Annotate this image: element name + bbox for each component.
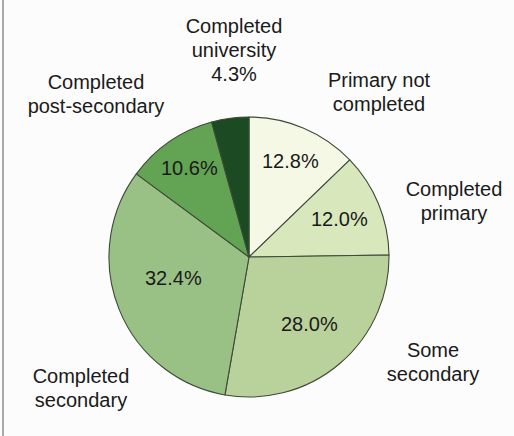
label-line: secondary	[378, 362, 488, 386]
label-line: Completed	[178, 14, 290, 38]
label-line: Completed	[396, 177, 512, 201]
label-line: post-secondary	[16, 94, 176, 118]
label-completed-primary: Completed primary	[396, 177, 512, 225]
pct-primary-not-completed: 12.8%	[262, 149, 319, 173]
label-some-secondary: Some secondary	[378, 338, 488, 386]
label-line: Completed	[26, 364, 136, 388]
pct-completed-primary: 12.0%	[311, 207, 368, 231]
label-completed-university: Completed university 4.3%	[178, 14, 290, 86]
pct-some-secondary: 28.0%	[281, 312, 338, 336]
label-line: secondary	[26, 388, 136, 412]
label-completed-secondary: Completed secondary	[26, 364, 136, 412]
label-line: Some	[378, 338, 488, 362]
label-primary-not-completed: Primary not completed	[314, 68, 444, 116]
pct-completed-post-secondary: 10.6%	[161, 156, 218, 180]
label-line: 4.3%	[178, 62, 290, 86]
label-line: completed	[314, 92, 444, 116]
label-completed-post-secondary: Completed post-secondary	[16, 70, 176, 118]
label-line: primary	[396, 201, 512, 225]
label-line: Completed	[16, 70, 176, 94]
pct-completed-secondary: 32.4%	[145, 266, 202, 290]
label-line: Primary not	[314, 68, 444, 92]
label-line: university	[178, 38, 290, 62]
